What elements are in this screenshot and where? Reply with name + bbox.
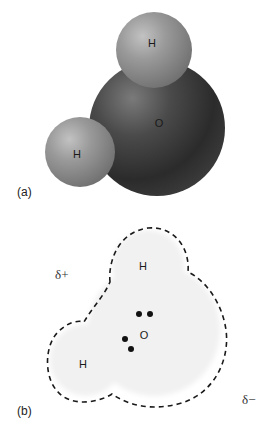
panel-label-a: (a)	[17, 185, 32, 199]
panel-label-b: (b)	[17, 404, 32, 418]
cloud-atom-label-h-left: H	[79, 358, 87, 370]
hydrogen-sphere-top	[116, 12, 192, 88]
water-molecule-figure: H O H (a) H O H δ+ δ− (b)	[0, 0, 266, 427]
partial-positive-charge-label: δ+	[55, 267, 68, 282]
lone-pair-2-electron-1	[122, 336, 128, 342]
panel-b-electron-cloud: H O H δ+ δ− (b)	[17, 228, 255, 418]
atom-label-o: O	[155, 117, 164, 129]
lone-pair-1-electron-1	[136, 311, 142, 317]
panel-a-space-filling-model: H O H (a)	[17, 12, 225, 199]
lone-pair-2-electron-2	[128, 346, 134, 352]
electron-cloud-fill	[50, 230, 220, 396]
cloud-atom-label-h-top: H	[139, 260, 147, 272]
atom-label-h-top: H	[148, 37, 156, 49]
partial-negative-charge-label: δ−	[242, 392, 255, 407]
atom-label-h-left: H	[73, 148, 81, 160]
lone-pair-1-electron-2	[147, 311, 153, 317]
cloud-atom-label-o: O	[140, 329, 149, 341]
